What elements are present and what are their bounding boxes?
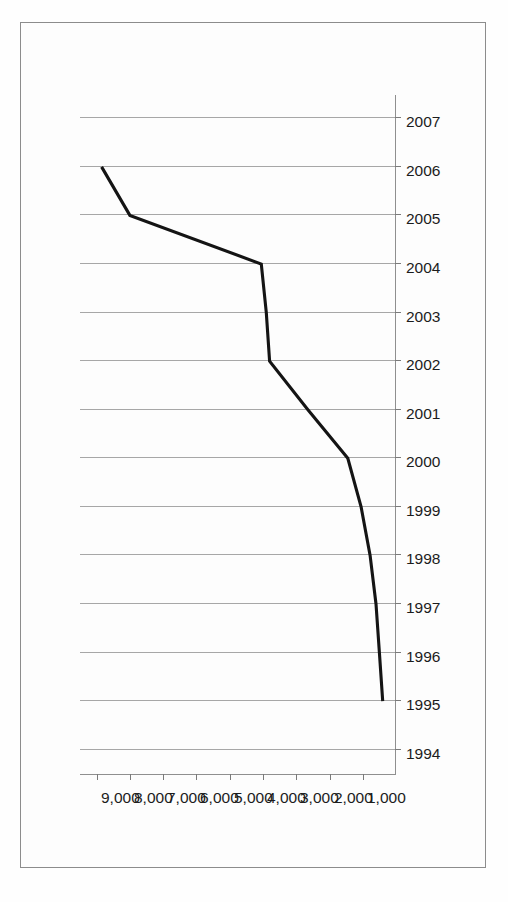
- y-tick-5000: [230, 774, 231, 780]
- x-axis-label-1998: 1998: [406, 550, 440, 568]
- x-axis-label-2007: 2007: [406, 113, 440, 131]
- x-axis-label-1994: 1994: [406, 745, 440, 763]
- y-tick-3000: [296, 774, 297, 780]
- y-tick-2000: [330, 774, 331, 780]
- y-tick-6000: [196, 774, 197, 780]
- x-axis-label-2005: 2005: [406, 210, 440, 228]
- x-axis-label-2000: 2000: [406, 453, 440, 471]
- y-tick-7000: [163, 774, 164, 780]
- x-axis-label-1997: 1997: [406, 599, 440, 617]
- y-tick-9000: [97, 774, 98, 780]
- rotated-chart: 1994199519961997199819992000200120022003…: [64, 71, 444, 831]
- x-axis-label-2001: 2001: [406, 405, 440, 423]
- y-tick-1000: [363, 774, 364, 780]
- chart-stage: 1994199519961997199819992000200120022003…: [0, 0, 508, 902]
- x-axis-label-2006: 2006: [406, 162, 440, 180]
- x-axis-label-1996: 1996: [406, 648, 440, 666]
- figure-page: 1994199519961997199819992000200120022003…: [0, 0, 508, 902]
- y-tick-4000: [263, 774, 264, 780]
- x-axis-label-1999: 1999: [406, 502, 440, 520]
- y-axis-label-1000: 1,000: [367, 789, 406, 807]
- data-series-line: [80, 94, 396, 774]
- plot-area: [80, 95, 396, 775]
- x-axis-label-2003: 2003: [406, 308, 440, 326]
- x-axis-label-1995: 1995: [406, 696, 440, 714]
- x-axis-label-2002: 2002: [406, 356, 440, 374]
- y-tick-8000: [130, 774, 131, 780]
- x-axis-label-2004: 2004: [406, 259, 440, 277]
